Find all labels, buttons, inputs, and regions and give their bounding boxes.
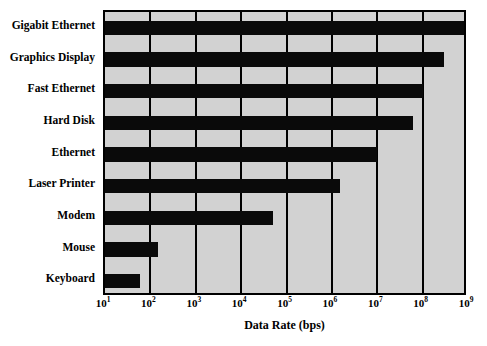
category-label: Fast Ethernet [28,82,95,95]
bar [105,242,158,257]
x-tick-label: 106 [323,297,338,309]
category-label: Ethernet [52,146,95,159]
x-tick-label: 108 [413,297,428,309]
category-label: Gigabit Ethernet [12,19,95,32]
x-tick-label: 101 [96,297,111,309]
bar-row [105,211,464,226]
bar [105,274,140,289]
bar [105,21,466,36]
x-tick-label: 103 [186,297,201,309]
bar-row [105,242,464,257]
category-label: Laser Printer [28,177,95,190]
bar-chart: Gigabit EthernetGraphics DisplayFast Eth… [0,0,487,346]
bar [105,116,413,131]
x-axis-title: Data Rate (bps) [103,318,466,333]
bars-container [105,12,464,293]
category-label: Keyboard [46,272,95,285]
x-tick-label: 105 [277,297,292,309]
category-label: Graphics Display [10,51,95,64]
x-tick-label: 102 [141,297,156,309]
category-label: Modem [57,209,95,222]
x-tick-label: 107 [368,297,383,309]
bar-row [105,21,464,36]
bar-row [105,147,464,162]
bar [105,211,273,226]
bar [105,52,444,67]
category-axis-labels: Gigabit EthernetGraphics DisplayFast Eth… [0,10,99,295]
bar [105,179,340,194]
x-tick-label: 104 [232,297,247,309]
bar [105,84,423,99]
x-axis-tick-labels: 101102103104105106107108109 [0,297,487,315]
bar-row [105,116,464,131]
plot-area [103,10,466,295]
bar-row [105,179,464,194]
bar [105,147,377,162]
category-label: Mouse [62,241,95,254]
x-tick-label: 109 [459,297,474,309]
bar-row [105,84,464,99]
category-label: Hard Disk [44,114,95,127]
bar-row [105,52,464,67]
bar-row [105,274,464,289]
